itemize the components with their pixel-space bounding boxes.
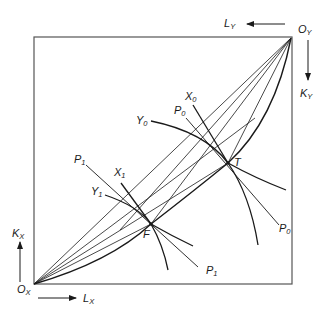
rays-from-origin-y <box>120 38 291 230</box>
label-isoquant-x1: X1 <box>113 166 126 180</box>
rays-from-origin-x <box>34 38 291 284</box>
label-isoquant-x0: X0 <box>184 90 197 104</box>
label-price-p1-lower: P1 <box>206 264 218 278</box>
label-isoquant-y1: Y1 <box>91 185 103 199</box>
label-isoquant-y0: Y0 <box>136 114 148 128</box>
label-price-p0-upper: P0 <box>174 104 186 118</box>
label-labor-y: LY <box>224 17 236 31</box>
price-line-p0 <box>186 118 279 225</box>
label-point-t: T <box>234 156 242 168</box>
label-point-f: F <box>143 228 151 240</box>
point-t-marker <box>226 161 230 165</box>
label-price-p1-upper: P1 <box>74 153 86 167</box>
label-capital-y: KY <box>300 87 313 101</box>
label-labor-x: LX <box>83 292 95 306</box>
isoquant-x0 <box>193 105 228 163</box>
label-origin-y: OY <box>298 23 313 37</box>
edgeworth-box-diagram: OY LY KY KX OX LX T F X0 P0 Y0 P0 P1 X1 … <box>0 0 330 322</box>
label-price-p0-lower: P0 <box>279 222 291 236</box>
point-f-marker <box>149 222 153 226</box>
label-origin-x: OX <box>17 283 32 297</box>
label-capital-x: KX <box>12 227 25 241</box>
